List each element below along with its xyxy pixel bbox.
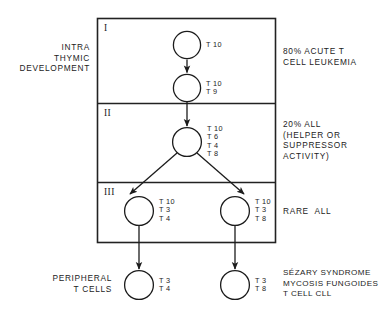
arrow-stage2-to-stage3-left	[130, 153, 177, 194]
cell-peripheral-left-circle	[125, 271, 154, 300]
markers-cell-peripheral-left: T 3 T 4	[159, 277, 170, 294]
label-all-helper-suppressor: 20% ALL (HELPER OR SUPPRESSOR ACTIVITY)	[283, 119, 385, 161]
markers-cell-stage1-bottom: T 10 T 9	[206, 80, 222, 97]
cell-stage3-right-circle	[221, 197, 250, 226]
stage-numeral-1: I	[104, 23, 108, 34]
cell-peripheral-right-circle	[221, 271, 250, 300]
markers-cell-stage3-left: T 10 T 3 T 4	[159, 198, 175, 223]
markers-cell-stage1-top: T 10	[206, 41, 222, 49]
cell-stage1-top-circle	[173, 31, 200, 58]
label-rare-all: RARE ALL	[283, 206, 385, 217]
label-intrathymic-development: INTRA THYMIC DEVELOPMENT	[0, 42, 90, 74]
cell-stage2-circle	[173, 128, 202, 157]
markers-cell-stage2: T 10 T 6 T 4 T 8	[207, 125, 223, 159]
arrow-stage2-to-stage3-right	[197, 153, 244, 194]
stage-numeral-2: II	[104, 108, 111, 119]
stage-numeral-3: III	[104, 187, 115, 198]
label-peripheral-t-cells: PERIPHERAL T CELLS	[0, 273, 112, 294]
markers-cell-stage3-right: T 10 T 3 T 8	[255, 198, 271, 223]
markers-cell-peripheral-right: T 3 T 8	[255, 277, 266, 294]
cell-stage3-left-circle	[125, 197, 154, 226]
label-acute-t-cell-leukemia: 80% ACUTE T CELL LEUKEMIA	[283, 46, 385, 67]
cell-stage1-bottom-circle	[173, 74, 200, 101]
t-cell-differentiation-diagram: I II III INTRA THYMIC DEVELOPMENT PERIPH…	[0, 0, 385, 313]
label-sezary-mycosis-cll: SÉZARY SYNDROME MYCOSIS FUNGOIDES T CELL…	[283, 268, 385, 300]
